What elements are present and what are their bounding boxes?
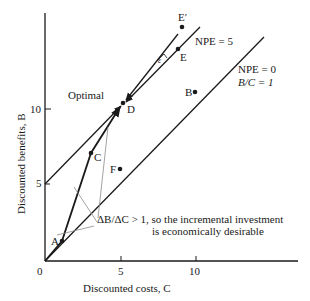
point-a-label: A <box>51 235 59 247</box>
x-axis-title: Discounted costs, C <box>83 282 171 294</box>
y-tick-label-5: 5 <box>36 177 42 189</box>
x-tick-label-10: 10 <box>189 265 201 277</box>
npe-5-label: NPE = 5 <box>195 35 233 47</box>
point-c-label: C <box>94 151 101 163</box>
point-e-prime <box>180 25 185 30</box>
optimal-label: Optimal <box>68 89 104 101</box>
epsilon-label: ε <box>158 56 162 65</box>
x-tick-label-0: 0 <box>37 265 43 277</box>
point-e-prime-label: E′ <box>178 11 187 23</box>
benefit-cost-diagram: 0 5 10 10 5 Discounted costs, C Discount… <box>0 0 310 301</box>
point-d-label: D <box>127 103 135 115</box>
point-b <box>193 90 198 95</box>
x-tick-label-5: 5 <box>118 265 124 277</box>
point-e-label: E <box>180 51 187 63</box>
point-d <box>121 101 126 106</box>
y-axis-title: Discounted benefits, B <box>15 113 27 214</box>
d-to-e-prime-line <box>126 34 178 100</box>
point-c <box>89 151 94 156</box>
pointer-line-ac <box>74 187 97 222</box>
point-f <box>118 167 123 172</box>
y-tick-label-10: 10 <box>30 103 42 115</box>
npe-0-label: NPE = 0 <box>238 63 276 75</box>
pointer-line-oa <box>57 226 94 235</box>
bc-ratio-label: B/C = 1 <box>238 76 274 88</box>
incremental-note-line2: is economically desirable <box>152 225 264 237</box>
incremental-note-line1: ΔB/ΔC > 1, so the incremental investment <box>97 213 283 225</box>
point-f-label: F <box>110 163 116 175</box>
point-a <box>60 239 65 244</box>
point-b-label: B <box>185 86 192 98</box>
